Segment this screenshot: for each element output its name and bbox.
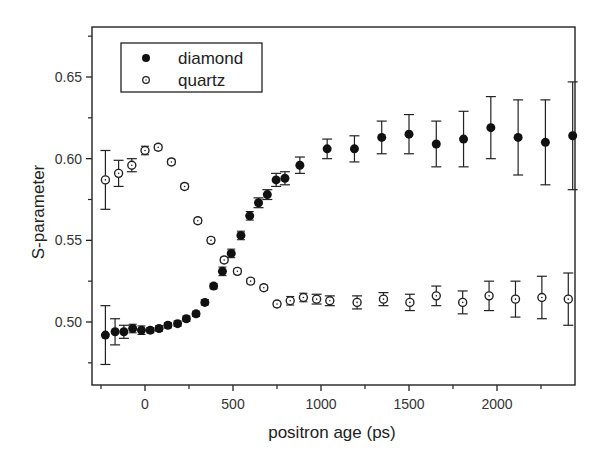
x-tick-label: 0 (141, 396, 149, 412)
quartz-marker-dot (462, 302, 464, 304)
diamond-marker (128, 324, 137, 333)
diamond-marker (350, 144, 359, 153)
legend-label-quartz: quartz (178, 71, 225, 90)
diamond-marker (218, 267, 227, 276)
quartz-marker-dot (197, 220, 199, 222)
diamond-marker (137, 326, 146, 335)
quartz-marker-dot (276, 303, 278, 305)
chart-canvas: 0.500.550.600.65 0500100015002000 diamon… (0, 0, 604, 464)
filled-circle-icon (142, 54, 150, 62)
diamond-marker (146, 326, 155, 335)
quartz-marker-dot (488, 295, 490, 297)
diamond-marker (163, 321, 172, 330)
quartz-marker-dot (223, 259, 225, 261)
diamond-marker (459, 135, 468, 144)
quartz-marker-dot (210, 240, 212, 242)
y-tick-label: 0.60 (55, 151, 82, 167)
quartz-marker-dot (157, 146, 159, 148)
quartz-marker-dot (144, 150, 146, 152)
quartz-marker-dot (250, 280, 252, 282)
quartz-marker-dot (409, 302, 411, 304)
quartz-marker-dot (435, 295, 437, 297)
quartz-marker-dot (171, 161, 173, 163)
y-tick-label: 0.55 (55, 232, 82, 248)
diamond-marker (173, 319, 182, 328)
x-axis-title: positron age (ps) (268, 423, 396, 442)
error-bars (100, 82, 577, 365)
diamond-marker (111, 327, 120, 336)
diamond-marker (263, 190, 272, 199)
quartz-marker-dot (184, 186, 186, 188)
legend-label-diamond: diamond (178, 49, 243, 68)
quartz-marker-dot (515, 298, 517, 300)
y-tick-label: 0.65 (55, 69, 82, 85)
diamond-marker (568, 131, 577, 140)
quartz-marker-dot (356, 302, 358, 304)
diamond-marker (323, 144, 332, 153)
quartz-marker-dot (383, 298, 385, 300)
x-tick-label: 500 (221, 396, 245, 412)
diamond-marker (272, 175, 281, 184)
legend: diamond quartz (121, 43, 262, 92)
diamond-marker (405, 130, 414, 139)
diamond-marker (192, 309, 201, 318)
quartz-marker-dot (237, 271, 239, 273)
x-tick-label: 1500 (393, 396, 424, 412)
quartz-marker-dot (131, 164, 133, 166)
diamond-marker (101, 331, 110, 340)
quartz-marker-dot (316, 298, 318, 300)
diamond-marker (119, 327, 128, 336)
y-axis-title: S-parameter (29, 164, 48, 259)
diamond-marker (280, 174, 289, 183)
y-axis: 0.500.550.600.65 (55, 36, 92, 363)
diamond-marker (541, 138, 550, 147)
quartz-marker-dot (303, 297, 305, 299)
quartz-marker-dot (329, 300, 331, 302)
diamond-marker (182, 314, 191, 323)
diamond-marker (377, 133, 386, 142)
diamond-marker (432, 139, 441, 148)
quartz-marker-dot (289, 300, 291, 302)
diamond-marker (155, 324, 164, 333)
diamond-marker (254, 198, 263, 207)
diamond-marker (209, 282, 218, 291)
quartz-marker-dot (105, 179, 107, 181)
open-circle-icon-dot (145, 79, 146, 80)
x-tick-label: 2000 (481, 396, 512, 412)
diamond-marker (236, 231, 245, 240)
y-tick-label: 0.50 (55, 314, 82, 330)
quartz-marker-dot (263, 287, 265, 289)
x-axis: 0500100015002000 (101, 385, 541, 412)
quartz-marker-dot (541, 297, 543, 299)
series-diamond (101, 123, 577, 339)
quartz-marker-dot (118, 173, 120, 175)
series-quartz (101, 143, 572, 308)
diamond-marker (295, 161, 304, 170)
diamond-marker (245, 211, 254, 220)
diamond-marker (227, 249, 236, 258)
diamond-marker (486, 123, 495, 132)
diamond-marker (514, 133, 523, 142)
diamond-marker (200, 298, 209, 307)
x-tick-label: 1000 (305, 396, 336, 412)
quartz-marker-dot (567, 298, 569, 300)
